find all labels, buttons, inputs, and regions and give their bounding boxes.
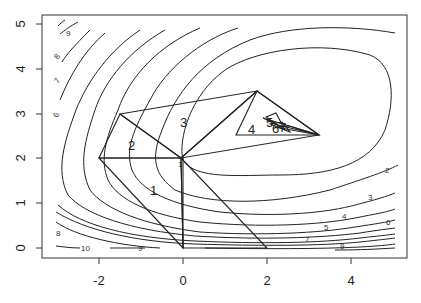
- contour-lines: [56, 20, 398, 250]
- y-tick-label: 2: [13, 154, 28, 161]
- x-tick-label: 0: [179, 273, 186, 288]
- y-tick-label: 3: [13, 110, 28, 117]
- x-tick-label: 4: [347, 273, 354, 288]
- contour-label: 3: [368, 193, 373, 202]
- contour-plot: -2 0 2 4 0 1 2 3 4 5: [0, 0, 421, 303]
- contour-label: 1: [178, 160, 183, 169]
- contour-label: 7: [52, 76, 62, 85]
- x-axis-labels: -2 0 2 4: [93, 273, 354, 288]
- contour-label: 8: [52, 52, 62, 61]
- contour-label: 2: [385, 166, 390, 175]
- y-tick-label: 5: [13, 20, 28, 27]
- contour-label: 7: [305, 235, 310, 244]
- step-label: 2: [128, 138, 135, 153]
- y-tick-label: 0: [13, 244, 28, 251]
- contour-label: 10: [81, 244, 90, 253]
- contour-label: 9: [340, 242, 345, 251]
- x-axis: [99, 258, 351, 264]
- step-label: 4: [248, 122, 255, 137]
- x-tick-label: -2: [93, 273, 105, 288]
- step-label: 7: [279, 120, 286, 135]
- contour-labels: 9 8 7 6 8 10 9 2 3 4 5 6 7 9 1: [51, 29, 391, 253]
- step-label: 3: [180, 115, 187, 130]
- step-label: 1: [150, 183, 157, 198]
- y-axis: [36, 24, 42, 248]
- y-tick-label: 1: [13, 199, 28, 206]
- contour-label: 8: [56, 229, 61, 238]
- contour-label: 5: [324, 223, 329, 232]
- x-tick-label: 2: [263, 273, 270, 288]
- contour-label: 9: [66, 29, 71, 38]
- plot-frame: [42, 15, 407, 258]
- contour-label: 9: [138, 244, 143, 253]
- contour-label: 6: [51, 111, 61, 119]
- contour-label: 6: [386, 218, 391, 227]
- y-axis-labels: 0 1 2 3 4 5: [13, 20, 28, 251]
- y-tick-label: 4: [13, 65, 28, 72]
- contour-label: 4: [342, 212, 347, 221]
